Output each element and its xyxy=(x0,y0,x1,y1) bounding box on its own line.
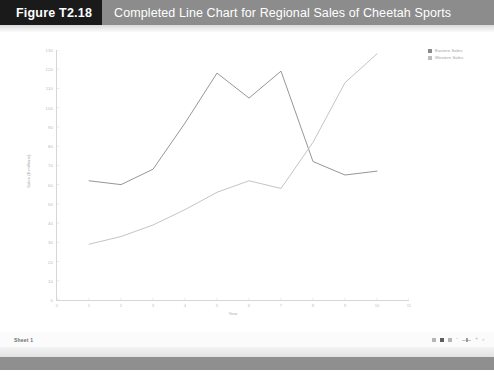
y-axis-tick-label: 20 xyxy=(48,259,53,264)
y-axis-tick-label: 100 xyxy=(45,105,53,110)
figure-page: Figure T2.18 Completed Line Chart for Re… xyxy=(0,0,494,375)
sheet-tab-sheet1[interactable]: Sheet 1 xyxy=(14,337,33,343)
x-axis-tick-label: 8 xyxy=(312,303,314,308)
series-line xyxy=(89,71,377,184)
y-axis-tick-label: 30 xyxy=(48,240,53,245)
y-axis-title: Sales ($ millions) xyxy=(26,155,31,188)
y-axis-tick-label: 70 xyxy=(48,163,53,168)
normal-view-icon[interactable] xyxy=(432,338,436,342)
y-axis-tick-label: 50 xyxy=(48,201,53,206)
legend-item: Western Sales xyxy=(428,55,463,60)
figure-number-tag: Figure T2.18 xyxy=(0,0,102,25)
y-axis-tick-label: 40 xyxy=(48,221,53,226)
legend-swatch-icon xyxy=(428,56,432,60)
x-axis-tick-label: 2 xyxy=(120,303,122,308)
figure-header-banner: Figure T2.18 Completed Line Chart for Re… xyxy=(0,0,494,25)
x-axis-tick-label: 5 xyxy=(216,303,218,308)
legend-label: Eastern Sales xyxy=(435,48,462,53)
legend-label: Western Sales xyxy=(435,55,463,60)
zoom-slider-knob[interactable] xyxy=(466,338,468,342)
x-axis-tick-label: 1 xyxy=(88,303,90,308)
y-axis-tick-label: 10 xyxy=(48,278,53,283)
y-axis-tick-label: 90 xyxy=(48,124,53,129)
status-bar: Sheet 1 − + ⌕ xyxy=(0,332,494,347)
series-line xyxy=(89,54,377,244)
page-bottom-edge xyxy=(0,370,494,375)
x-axis-tick-label: 6 xyxy=(248,303,250,308)
x-axis-tick-label: 0 xyxy=(56,303,58,308)
page-break-view-icon[interactable] xyxy=(448,338,452,342)
zoom-slider[interactable] xyxy=(462,338,471,342)
x-axis-tick-label: 10 xyxy=(375,303,380,308)
y-axis-tick-label: 110 xyxy=(46,86,53,91)
worksheet-area: Sales ($ millions) Year 0102030405060708… xyxy=(0,32,494,332)
x-axis-title: Year xyxy=(229,311,238,316)
zoom-level-icon[interactable]: ⌕ xyxy=(482,337,485,342)
x-axis-tick-label: 9 xyxy=(344,303,346,308)
chart-legend: Eastern SalesWestern Sales xyxy=(428,48,463,60)
legend-swatch-icon xyxy=(428,49,432,53)
status-bar-controls: − + ⌕ xyxy=(432,337,485,342)
y-axis-tick-label: 80 xyxy=(48,144,53,149)
y-axis-tick-label: 130 xyxy=(45,48,53,53)
plot-area: Year 01020304050607080901001101201300123… xyxy=(56,50,409,301)
header-shadow xyxy=(0,25,494,32)
y-axis-tick-label: 0 xyxy=(50,298,53,303)
figure-title: Completed Line Chart for Regional Sales … xyxy=(102,0,451,25)
footer-bar xyxy=(0,357,494,370)
page-layout-view-icon[interactable] xyxy=(440,338,444,342)
legend-item: Eastern Sales xyxy=(428,48,463,53)
y-axis-tick-label: 60 xyxy=(48,182,53,187)
status-bar-shadow xyxy=(0,347,494,357)
zoom-out-button[interactable]: − xyxy=(456,337,459,342)
x-axis-tick-label: 11 xyxy=(407,303,411,308)
line-chart-svg xyxy=(57,50,409,300)
x-axis-tick-label: 7 xyxy=(280,303,282,308)
x-axis-tick-label: 3 xyxy=(152,303,154,308)
zoom-in-button[interactable]: + xyxy=(475,337,478,342)
chart-object[interactable]: Sales ($ millions) Year 0102030405060708… xyxy=(10,40,484,328)
x-axis-tick-label: 4 xyxy=(184,303,186,308)
y-axis-tick-label: 120 xyxy=(45,67,53,72)
